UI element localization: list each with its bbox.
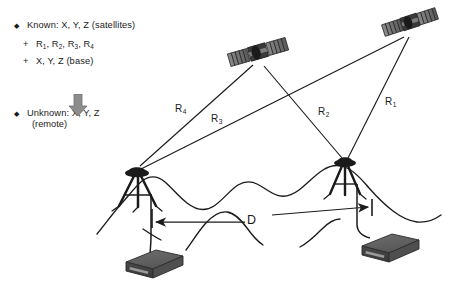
range-line-R2 bbox=[264, 66, 342, 158]
satellite-solar-panel-right bbox=[417, 8, 439, 25]
range-label-R4: R4 bbox=[175, 103, 186, 114]
tripod-foot bbox=[360, 194, 366, 199]
antenna-base-left bbox=[112, 167, 162, 255]
receiver-left bbox=[126, 250, 183, 278]
legend-ranges-label: R1, R2, R3, R4 bbox=[36, 39, 184, 51]
tripod-foot bbox=[133, 207, 138, 212]
tripod-foot bbox=[324, 194, 330, 199]
down-arrow-icon bbox=[68, 94, 88, 116]
diamond-bullet-icon: ◆ bbox=[14, 20, 23, 31]
gps-diagram-figure: ◆ Known: X, Y, Z (satellites) + R1, R2, … bbox=[0, 0, 457, 295]
tripod-leg bbox=[141, 176, 156, 206]
satellite-solar-panel-left bbox=[382, 19, 404, 36]
receiver-right bbox=[362, 234, 419, 262]
tripod-leg bbox=[348, 166, 360, 194]
legend-row-unknown: ◆ Unknown: X, Y, Z bbox=[14, 108, 184, 120]
satellite-left bbox=[227, 37, 289, 67]
baseline-arrow-right bbox=[272, 207, 368, 215]
legend-known-label: Known: X, Y, Z (satellites) bbox=[27, 20, 184, 32]
satellite-solar-panel-right bbox=[266, 37, 289, 55]
range-label-R3: R3 bbox=[211, 113, 222, 124]
legend-unknown-sublabel: (remote) bbox=[32, 119, 184, 131]
diamond-bullet-icon: ◆ bbox=[14, 108, 23, 119]
baseline-distance bbox=[152, 199, 372, 228]
plus-sign-icon: + bbox=[23, 39, 32, 51]
legend-row-base: + X, Y, Z (base) bbox=[14, 56, 184, 68]
tripod-foot bbox=[156, 206, 162, 211]
legend-unknown-label: Unknown: X, Y, Z bbox=[27, 108, 184, 120]
plus-sign-icon: + bbox=[23, 56, 32, 68]
antenna-remote-right bbox=[324, 157, 370, 238]
range-label-R1: R1 bbox=[385, 96, 396, 107]
range-label-R2: R2 bbox=[318, 106, 329, 117]
satellite-solar-panel-left bbox=[227, 49, 250, 67]
baseline-distance-label: D bbox=[247, 213, 256, 227]
antenna-dome-icon bbox=[338, 157, 352, 161]
legend-row-known: ◆ Known: X, Y, Z (satellites) bbox=[14, 20, 184, 32]
legend-base-label: X, Y, Z (base) bbox=[36, 56, 184, 68]
legend-block: ◆ Known: X, Y, Z (satellites) + R1, R2, … bbox=[14, 20, 184, 131]
antenna-cable bbox=[150, 195, 151, 255]
legend-row-ranges: + R1, R2, R3, R4 bbox=[14, 39, 184, 51]
range-line-R1 bbox=[348, 37, 409, 158]
tripod-leg bbox=[330, 166, 342, 194]
satellite-right bbox=[381, 7, 438, 37]
